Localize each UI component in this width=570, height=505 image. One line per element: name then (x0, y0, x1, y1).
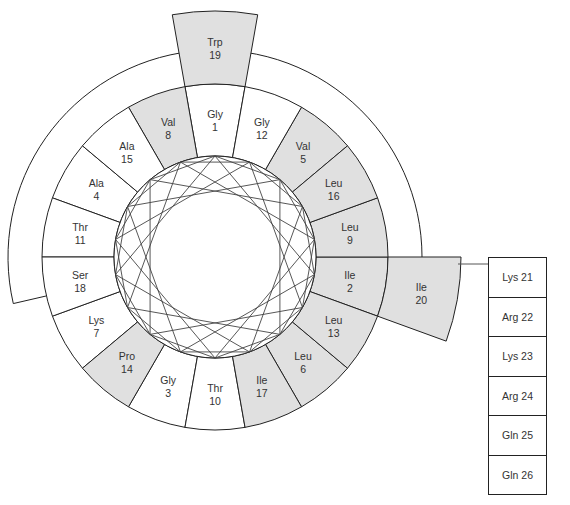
residue-label: Val (296, 140, 310, 152)
residue-label: Thr (72, 221, 88, 233)
tail-residue: Arg 24 (489, 377, 546, 417)
tail-residue: Gln 25 (489, 416, 546, 456)
residue-number: 13 (328, 327, 340, 339)
residue-label: Leu (325, 314, 343, 326)
outer-residue-20: Ile20 (378, 257, 461, 341)
residue-label: Ile (416, 281, 427, 293)
residue-number: 2 (347, 282, 353, 294)
residue-number: 12 (256, 129, 268, 141)
residue-number: 8 (165, 129, 171, 141)
residue-number: 6 (300, 363, 306, 375)
residue-label: Thr (207, 382, 223, 394)
residue-label: Ile (344, 269, 355, 281)
residue-label: Ile (256, 374, 267, 386)
residue-number: 18 (74, 282, 86, 294)
residue-label: Leu (294, 350, 312, 362)
residue-number: 14 (121, 363, 133, 375)
outer-residue-19: Trp19 (172, 11, 257, 87)
residue-label: Gly (254, 116, 271, 128)
residue-number: 1 (212, 121, 218, 133)
residue-number: 4 (93, 190, 99, 202)
residue-label: Ser (72, 269, 89, 281)
residue-label: Trp (207, 36, 223, 48)
residue-number: 9 (347, 234, 353, 246)
residue-number: 10 (209, 395, 221, 407)
c-terminal-tail: Lys 21 Arg 22 Lys 23 Arg 24 Gln 25 Gln 2… (488, 257, 547, 495)
tail-residue: Lys 23 (489, 337, 546, 377)
helix-chord-star (114, 156, 316, 358)
residue-number: 5 (300, 153, 306, 165)
helical-wheel: Gly1Ile2Gly3Ala4Val5Leu6Lys7Val8Leu9Thr1… (0, 0, 570, 505)
residue-number: 15 (121, 153, 133, 165)
residue-number: 16 (328, 190, 340, 202)
residue-number: 7 (93, 327, 99, 339)
residue-label: Lys (88, 314, 104, 326)
residue-label: Leu (341, 221, 359, 233)
residue-label: Gly (160, 374, 177, 386)
residue-label: Val (161, 116, 175, 128)
residue-number: 3 (165, 387, 171, 399)
residue-label: Ala (119, 140, 134, 152)
residue-number: 17 (256, 387, 268, 399)
residue-label: Leu (325, 177, 343, 189)
residue-number: 19 (209, 49, 221, 61)
residue-label: Ala (89, 177, 104, 189)
tail-residue: Arg 22 (489, 298, 546, 338)
residue-number: 11 (75, 234, 86, 246)
residue-label: Pro (119, 350, 136, 362)
tail-residue: Lys 21 (489, 258, 546, 298)
residue-number: 20 (415, 294, 427, 306)
residue-label: Gly (207, 108, 224, 120)
tail-residue: Gln 26 (489, 456, 546, 495)
